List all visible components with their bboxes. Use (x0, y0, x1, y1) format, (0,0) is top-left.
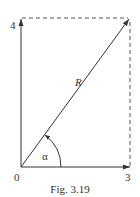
resultant-vector (21, 19, 129, 167)
angle-label: α (42, 150, 48, 162)
vector-diagram: 4 R α 0 3 Fig. 3.19 (0, 0, 140, 197)
figure-caption: Fig. 3.19 (50, 183, 90, 195)
y-tick-label: 4 (10, 19, 16, 31)
x-tick-label: 3 (125, 171, 131, 183)
origin-label: 0 (14, 171, 20, 183)
resultant-label: R (74, 76, 82, 88)
